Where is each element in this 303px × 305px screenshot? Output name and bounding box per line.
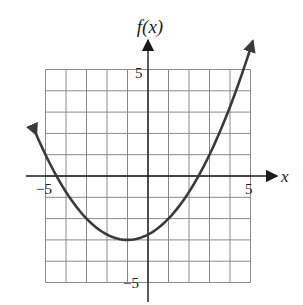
x-tick-neg5: −5 — [36, 181, 52, 197]
x-axis-label: x — [280, 167, 289, 186]
y-tick-neg5: −5 — [123, 275, 139, 291]
x-tick-5: 5 — [245, 181, 253, 197]
function-graph: f(x) x 5 −5 −5 5 — [0, 0, 303, 305]
parabola-curve — [36, 42, 252, 240]
y-axis-label: f(x) — [137, 16, 163, 38]
y-tick-5: 5 — [135, 65, 143, 81]
